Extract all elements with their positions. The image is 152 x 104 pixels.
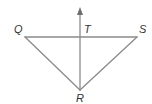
label-Q: Q xyxy=(14,23,23,35)
segment-QR xyxy=(25,37,80,90)
geometry-diagram: Q S T R xyxy=(0,0,152,104)
arrowhead-icon xyxy=(77,7,83,15)
segment-SR xyxy=(80,37,137,90)
label-R: R xyxy=(76,92,84,104)
label-S: S xyxy=(139,23,147,35)
label-T: T xyxy=(84,23,92,35)
